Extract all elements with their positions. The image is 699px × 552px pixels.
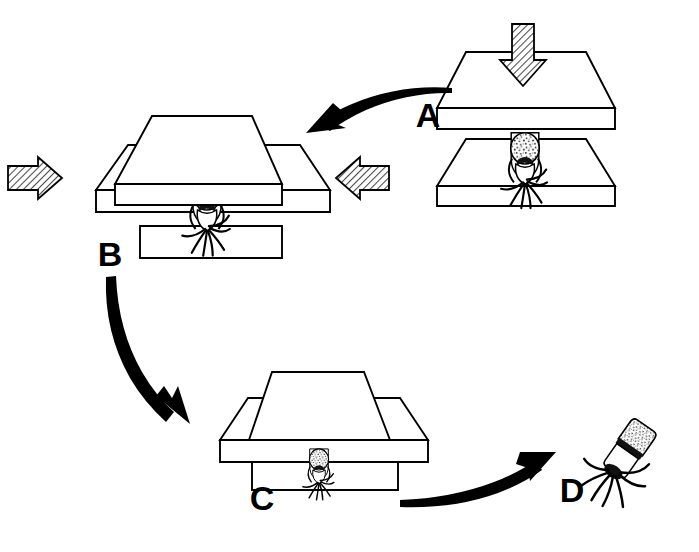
- panel-c-upper-plate: [249, 372, 390, 440]
- panel-label-d: D: [560, 471, 585, 509]
- diagram-canvas: A B: [0, 0, 699, 552]
- panel-label-c: C: [250, 479, 275, 517]
- panel-label-a: A: [416, 96, 441, 134]
- figure-root: A B: [0, 0, 699, 552]
- panel-label-b: B: [98, 235, 123, 273]
